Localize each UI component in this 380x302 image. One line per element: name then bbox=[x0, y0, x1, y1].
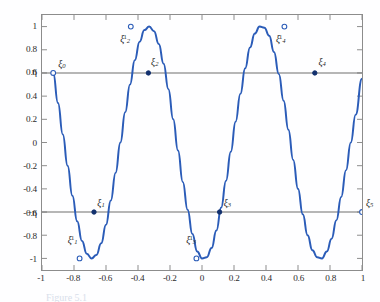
point-label-xi-1-prime: ξ11 bbox=[68, 235, 78, 246]
tick-marks bbox=[42, 15, 362, 270]
marker-filled-xi-3[interactable] bbox=[217, 210, 221, 214]
marker-open-xi-3-prime[interactable] bbox=[194, 256, 199, 261]
reference-line-label-eta: η bbox=[32, 67, 39, 77]
point-label-xi-1: ξ1 bbox=[97, 199, 104, 209]
x-tick-label: 1 bbox=[361, 273, 365, 283]
point-label-xi-3: ξ3 bbox=[224, 199, 231, 209]
y-tick-label: 0.2 bbox=[26, 114, 37, 124]
y-tick-label: 0 bbox=[33, 138, 37, 148]
marker-open-xi-4-prime[interactable] bbox=[282, 24, 287, 29]
y-tick-label: -1 bbox=[30, 254, 37, 264]
figure-caption: Figure 5.1 bbox=[46, 292, 346, 302]
figure-container: 10.80.60.40.20-0.2-0.4-0.6-0.8-1 -1-0.8-… bbox=[0, 0, 380, 302]
x-tick-label: -0.4 bbox=[131, 273, 145, 283]
point-label-xi-5: ξ5 bbox=[366, 199, 373, 209]
x-tick-label: -0.6 bbox=[99, 273, 113, 283]
x-tick-label: -0.8 bbox=[66, 273, 80, 283]
x-tick-label: 0.6 bbox=[293, 273, 304, 283]
marker-filled-xi-4[interactable] bbox=[313, 71, 317, 75]
reference-lines bbox=[42, 73, 362, 212]
marker-filled-xi-2[interactable] bbox=[146, 71, 150, 75]
x-tick-label: 0.8 bbox=[325, 273, 336, 283]
point-label-xi-0: ξ0 bbox=[58, 60, 65, 70]
marker-open-xi-1-prime[interactable] bbox=[77, 256, 82, 261]
y-tick-label: 0.4 bbox=[26, 91, 37, 101]
marker-open-xi-5[interactable] bbox=[360, 210, 362, 215]
x-tick-label: 0.2 bbox=[229, 273, 240, 283]
x-tick-label: -0.2 bbox=[163, 273, 177, 283]
marker-open-xi-2-prime[interactable] bbox=[128, 24, 133, 29]
point-label-xi-3-prime: ξ13 bbox=[186, 235, 196, 246]
y-axis-tick-labels: 10.80.60.40.20-0.2-0.4-0.6-0.8-1 bbox=[0, 14, 37, 271]
plot-area bbox=[41, 14, 363, 271]
point-label-xi-4-prime: ξ14 bbox=[276, 34, 286, 45]
reference-line-label-minus-eta: −η bbox=[27, 208, 39, 218]
y-tick-label: 0.8 bbox=[26, 44, 37, 54]
annotation-markers bbox=[51, 24, 362, 261]
y-tick-label: -0.4 bbox=[23, 184, 37, 194]
point-label-xi-2: ξ2 bbox=[151, 58, 158, 68]
y-tick-label: -0.2 bbox=[23, 161, 37, 171]
x-tick-label: 0 bbox=[200, 273, 204, 283]
point-label-xi-4: ξ4 bbox=[319, 58, 326, 68]
plot-svg bbox=[42, 15, 362, 270]
marker-open-xi-0[interactable] bbox=[51, 71, 56, 76]
y-tick-label: 1 bbox=[33, 21, 37, 31]
marker-filled-xi-1[interactable] bbox=[92, 210, 96, 214]
error-curve bbox=[53, 27, 362, 259]
y-tick-label: -0.8 bbox=[23, 231, 37, 241]
x-tick-label: 0.4 bbox=[261, 273, 272, 283]
point-label-xi-2-prime: ξ12 bbox=[120, 34, 130, 45]
x-tick-label: -1 bbox=[37, 273, 44, 283]
x-axis-tick-labels: -1-0.8-0.6-0.4-0.200.20.40.60.81 bbox=[41, 273, 363, 287]
